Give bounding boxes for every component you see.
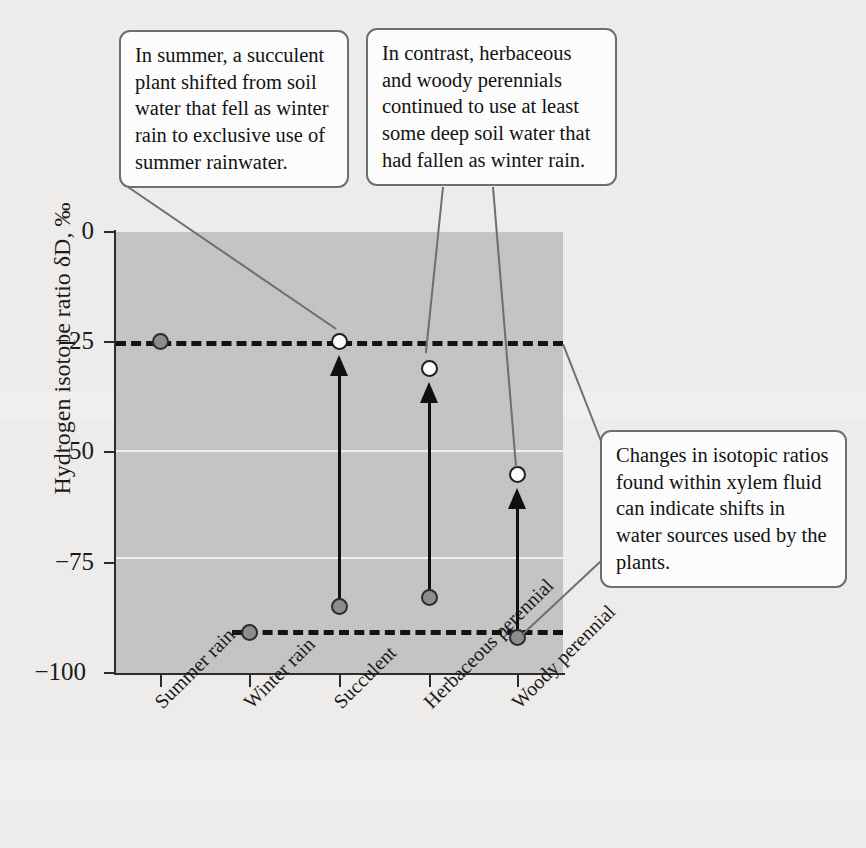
xylem-callout: Changes in isotopic ratios found within … [600,430,847,588]
figure-root: 0 −25 −50 −75 −100 Hydrogen isotope rati… [0,0,866,848]
y-tick-minus-100 [104,672,115,674]
data-point-succulent-source[interactable] [331,598,348,615]
data-point-herbaceous-xylem[interactable] [421,360,438,377]
y-tick-minus-50 [104,451,115,453]
shift-arrow-succulent-head [330,355,348,376]
scan-band [0,760,866,800]
leader-line-xylem-callout-top [562,344,602,442]
shift-arrow-herbaceous-head [420,382,438,403]
y-tick-0 [104,231,115,233]
y-axis-label: Hydrogen isotope ratio δD, ‰ [49,139,76,559]
y-tick-label-minus-100: −100 [6,658,86,686]
shift-arrow-woody-head [508,488,526,509]
y-tick-minus-75 [104,562,115,564]
data-point-woody-xylem[interactable] [509,466,526,483]
succulent-callout: In summer, a succulent plant shifted fro… [119,30,349,188]
shift-arrow-woody-shaft [516,496,519,638]
data-point-winter-rain-source[interactable] [241,624,258,641]
data-point-succulent-xylem[interactable] [331,333,348,350]
shift-arrow-herbaceous-shaft [428,390,431,598]
data-point-summer-rain-source[interactable] [152,333,169,350]
shift-arrow-succulent-shaft [338,363,341,607]
perennials-callout: In contrast, herbaceous and woody perenn… [366,28,617,186]
data-point-herbaceous-source[interactable] [421,589,438,606]
y-tick-minus-25 [104,341,115,343]
